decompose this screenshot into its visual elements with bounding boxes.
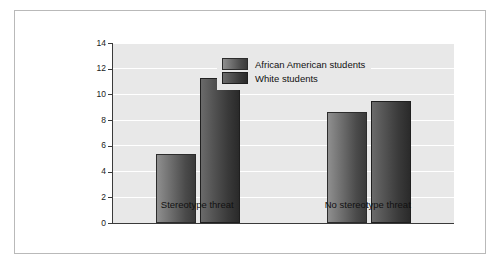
x-axis-tick-label: Stereotype threat: [117, 199, 277, 210]
x-axis-tick-label: No stereotype threat: [288, 199, 448, 210]
gridline: [113, 43, 454, 44]
chart-legend: African American students White students: [217, 52, 371, 90]
legend-item-white: White students: [222, 72, 365, 84]
y-axis-tick-mark: [108, 172, 112, 173]
y-axis-tick-mark: [108, 43, 112, 44]
y-axis-tick-mark: [108, 69, 112, 70]
legend-label-african-american: African American students: [255, 59, 365, 70]
y-axis-tick-label: 0: [86, 219, 106, 228]
y-axis-tick-label: 4: [86, 167, 106, 176]
y-axis-tick-label: 14: [86, 39, 106, 48]
y-axis-tick-mark: [108, 120, 112, 121]
bar: [156, 154, 196, 223]
y-axis-tick-label: 12: [86, 64, 106, 73]
y-axis-tick-mark: [108, 223, 112, 224]
legend-swatch-icon-white: [222, 72, 248, 84]
legend-label-white: White students: [255, 73, 318, 84]
chart-figure: Mean items solved (adjusted by SAT) Afri…: [14, 10, 486, 254]
y-axis-tick-mark: [108, 197, 112, 198]
legend-item-african-american: African American students: [222, 58, 365, 70]
y-axis-tick-mark: [108, 94, 112, 95]
y-axis-tick-label: 10: [86, 90, 106, 99]
y-axis-tick-label: 8: [86, 116, 106, 125]
y-axis-tick-label: 6: [86, 141, 106, 150]
gridline: [113, 94, 454, 95]
legend-swatch-icon-african-american: [222, 58, 248, 70]
y-axis-tick-label: 2: [86, 193, 106, 202]
y-axis-tick-mark: [108, 146, 112, 147]
